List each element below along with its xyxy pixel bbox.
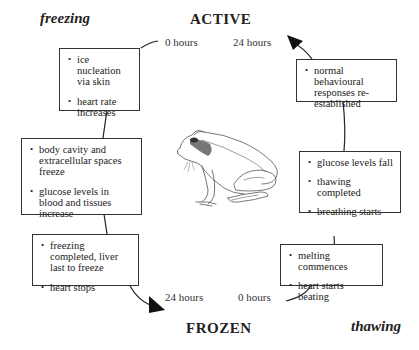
freezing-stage-1-item: ice nucleation via skin xyxy=(68,54,133,87)
freezing-stage-2-item: body cavity and extracellular spaces fre… xyxy=(30,144,135,177)
time-label-frozen-end: 24 hours xyxy=(165,291,203,303)
freezing-stage-3-item: freezing completed, liver last to freeze xyxy=(41,240,132,273)
time-label-active-start: 0 hours xyxy=(165,36,198,48)
connector-top-left xyxy=(141,41,158,48)
thawing-stage-2-item: thawing completed xyxy=(308,176,394,198)
thawing-stage-1-box: melting commences heart starts beating xyxy=(280,244,383,286)
state-label-frozen: FROZEN xyxy=(186,320,252,337)
frog-front-foot xyxy=(196,202,216,206)
thawing-stage-1-item: heart starts beating xyxy=(289,280,376,302)
thawing-stage-1-item: melting commences xyxy=(289,250,376,272)
freezing-stage-1-item: heart rate increases xyxy=(68,96,133,118)
arrowhead-to-frozen xyxy=(149,296,165,313)
freezing-stage-3-item: heart stops xyxy=(41,282,132,293)
frog-eye xyxy=(190,138,198,143)
freezing-stage-2-item: glucose levels in blood and tissues incr… xyxy=(30,186,135,219)
phase-label-thawing: thawing xyxy=(351,318,401,335)
phase-label-freezing: freezing xyxy=(40,10,90,27)
thawing-stage-2-item: breathing starts xyxy=(308,206,394,217)
thawing-stage-2-box: glucose levels fall thawing completed br… xyxy=(299,151,401,213)
frog-hind-foot xyxy=(228,192,268,202)
time-label-frozen-start: 0 hours xyxy=(238,291,271,303)
frog-illustration xyxy=(172,118,282,213)
connector-bottom-left xyxy=(130,286,150,305)
thawing-stage-2-item: glucose levels fall xyxy=(308,157,394,168)
thawing-stage-3-item: normal behavioural responses re-establis… xyxy=(305,65,390,109)
freezing-stage-1-box: ice nucleation via skin heart rate incre… xyxy=(59,48,140,111)
thawing-stage-3-box: normal behavioural responses re-establis… xyxy=(296,59,397,102)
freezing-stage-2-box: body cavity and extracellular spaces fre… xyxy=(21,138,142,215)
frog-thigh xyxy=(234,170,276,191)
freezing-stage-3-box: freezing completed, liver last to freeze… xyxy=(32,234,139,286)
state-label-active: ACTIVE xyxy=(190,11,251,28)
time-label-active-end: 24 hours xyxy=(233,36,271,48)
